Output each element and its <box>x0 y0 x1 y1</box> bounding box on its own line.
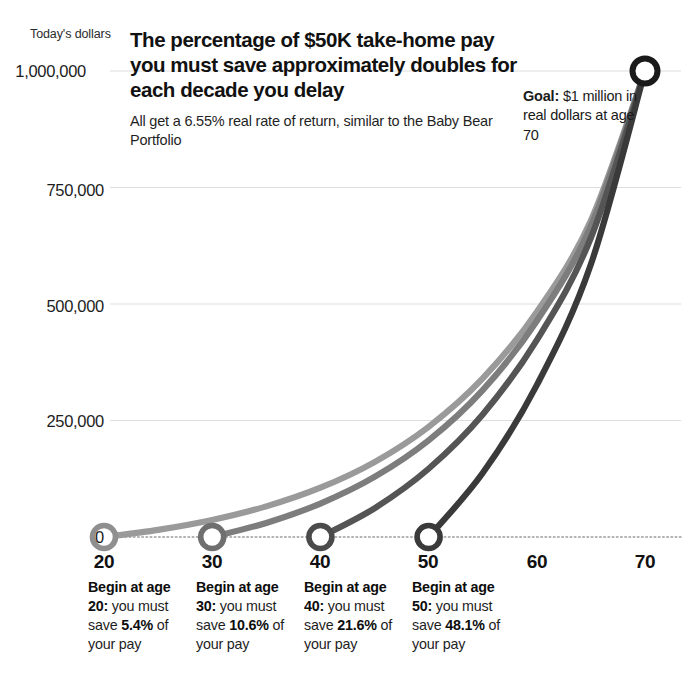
y-tick-label-1000000: 1,000,000 <box>0 62 86 81</box>
y-tick-label-250000: 250,000 <box>0 412 104 431</box>
caption-age-20: Begin at age 20: you must save 5.4% of y… <box>88 578 192 653</box>
chart-page: Today's dollars 1,000,000 750,000 500,00… <box>0 0 685 693</box>
caption-percent: 48.1% <box>445 617 485 633</box>
y-tick-label-750000: 750,000 <box>0 181 104 200</box>
data-point-marker-age-50 <box>417 526 440 549</box>
goal-annotation: Goal: $1 million in real dollars at age … <box>523 87 643 145</box>
headline-block: The percentage of $50K take-home pay you… <box>130 28 520 149</box>
y-tick-label-0: 0 <box>0 528 104 547</box>
goal-annotation-lead: Goal: <box>523 88 559 104</box>
x-tick-label-60: 60 <box>527 551 547 573</box>
x-tick-label-20: 20 <box>94 551 114 573</box>
caption-percent: 21.6% <box>337 617 377 633</box>
caption-age-30: Begin at age 30: you must save 10.6% of … <box>196 578 300 653</box>
caption-percent: 5.4% <box>121 617 153 633</box>
x-tick-label-70: 70 <box>635 551 655 573</box>
x-tick-label-30: 30 <box>202 551 222 573</box>
x-tick-label-40: 40 <box>310 551 330 573</box>
data-point-marker-age-40 <box>309 526 332 549</box>
page-subtitle: All get a 6.55% real rate of return, sim… <box>130 112 520 149</box>
caption-age-50: Begin at age 50: you must save 48.1% of … <box>412 578 516 653</box>
y-axis-unit-label: Today's dollars <box>30 27 111 41</box>
data-point-marker-age-70 <box>633 59 658 84</box>
caption-percent: 10.6% <box>229 617 269 633</box>
y-tick-label-500000: 500,000 <box>0 297 104 316</box>
data-point-marker-age-30 <box>201 526 224 549</box>
x-tick-label-50: 50 <box>418 551 438 573</box>
page-title: The percentage of $50K take-home pay you… <box>130 28 520 102</box>
caption-age-40: Begin at age 40: you must save 21.6% of … <box>304 578 408 653</box>
